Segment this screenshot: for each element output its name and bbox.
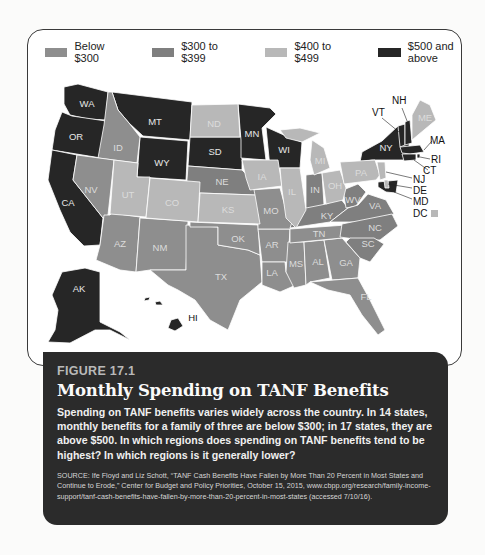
figure-source: SOURCE: Ife Floyd and Liz Schott, “TANF … xyxy=(57,471,434,502)
label-wv: WV xyxy=(345,194,361,205)
label-wy: WY xyxy=(154,157,170,168)
label-in: IN xyxy=(310,184,320,195)
label-tx: TX xyxy=(215,271,228,282)
label-al: AL xyxy=(312,256,324,267)
figure-caption: FIGURE 17.1 Monthly Spending on TANF Ben… xyxy=(43,352,448,525)
label-nm: NM xyxy=(153,242,168,253)
label-la: LA xyxy=(266,267,278,278)
label-ky: KY xyxy=(321,210,334,221)
callout-de: DE xyxy=(413,185,427,196)
state-ct xyxy=(402,154,416,161)
figure-body: Spending on TANF benefits varies widely … xyxy=(57,405,434,462)
callout-nj: NJ xyxy=(413,174,425,185)
figure-title: Monthly Spending on TANF Benefits xyxy=(57,381,434,400)
label-va: VA xyxy=(369,200,382,211)
label-ks: KS xyxy=(222,204,235,215)
label-az: AZ xyxy=(114,238,126,249)
label-ga: GA xyxy=(339,257,353,268)
state-hi xyxy=(168,318,183,331)
label-sd: SD xyxy=(208,146,221,157)
label-or: OR xyxy=(69,131,83,142)
label-nd: ND xyxy=(207,118,221,129)
label-mn: MN xyxy=(245,128,260,139)
label-ca: CA xyxy=(61,197,75,208)
label-ne: NE xyxy=(215,176,228,187)
label-pa: PA xyxy=(355,167,368,178)
figure-number: FIGURE 17.1 xyxy=(57,364,434,378)
callout-nh: NH xyxy=(392,95,406,106)
label-ak: AK xyxy=(73,283,86,294)
label-id: ID xyxy=(113,142,123,153)
state-ak xyxy=(48,268,130,343)
callout-dc: DC xyxy=(413,208,427,219)
label-sc: SC xyxy=(361,238,374,249)
state-hi-3 xyxy=(155,301,163,305)
callout-ri: RI xyxy=(431,154,441,165)
state-hi-2 xyxy=(144,297,150,301)
label-wi: WI xyxy=(278,144,290,155)
label-ia: IA xyxy=(258,171,268,182)
callout-md: MD xyxy=(413,196,429,207)
label-oh: OH xyxy=(328,180,342,191)
label-tn: TN xyxy=(313,228,326,239)
state-nh xyxy=(405,120,412,145)
label-ar: AR xyxy=(265,239,278,250)
label-mi: MI xyxy=(315,155,326,166)
label-ok: OK xyxy=(231,233,245,244)
state-ma xyxy=(400,145,424,154)
us-map: WA OR CA MT WY SD MN WI NY AK ID NV AZ N… xyxy=(0,0,485,370)
label-ms: MS xyxy=(289,258,303,269)
label-hi: HI xyxy=(188,312,198,323)
label-me: ME xyxy=(418,112,432,123)
label-fl: FL xyxy=(360,291,371,302)
callout-vt: VT xyxy=(372,107,385,118)
label-ut: UT xyxy=(122,189,135,200)
state-fl xyxy=(310,278,385,335)
label-ny: NY xyxy=(379,142,393,153)
label-nc: NC xyxy=(368,222,382,233)
label-il: IL xyxy=(288,186,296,197)
state-ri xyxy=(417,154,420,158)
dc-swatch xyxy=(431,210,438,217)
label-mt: MT xyxy=(148,116,162,127)
callout-ma: MA xyxy=(430,135,445,146)
label-co: CO xyxy=(165,197,179,208)
label-nv: NV xyxy=(84,184,98,195)
label-wa: WA xyxy=(80,98,96,109)
label-mo: MO xyxy=(263,205,278,216)
